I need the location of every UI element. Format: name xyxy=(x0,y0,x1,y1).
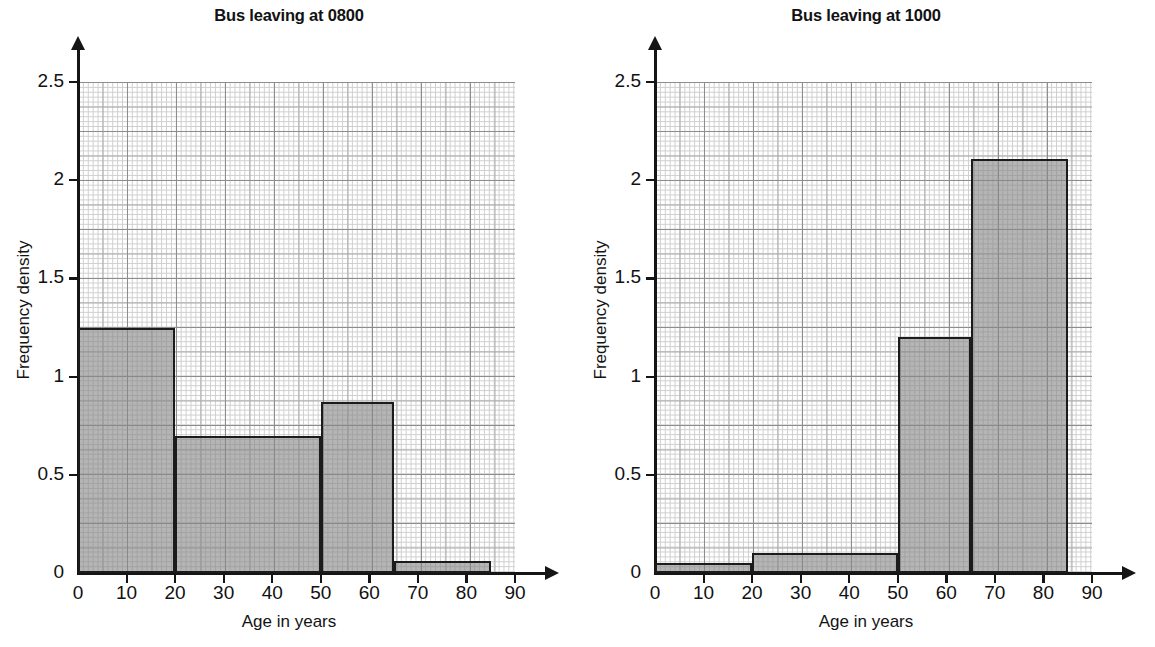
x-axis-arrow-icon xyxy=(545,566,559,580)
x-axis-tick-label: 20 xyxy=(727,582,777,604)
y-axis-tick-label-text: 0 xyxy=(630,561,641,583)
figure-root: Bus leaving at 080000.511.522.5010203040… xyxy=(0,0,1155,647)
histogram-bar xyxy=(655,563,752,573)
y-axis-tick xyxy=(69,474,78,476)
histogram-bar xyxy=(78,328,175,574)
y-axis-tick-label-text: 0.5 xyxy=(615,463,641,485)
plot-area xyxy=(78,82,515,573)
plot-area xyxy=(655,82,1092,573)
x-axis-tick-label: 80 xyxy=(1018,582,1068,604)
x-axis-tick-label: 0 xyxy=(53,582,103,604)
histogram-bar xyxy=(898,337,971,573)
x-axis-tick-label: 80 xyxy=(441,582,491,604)
chart-title: Bus leaving at 1000 xyxy=(577,6,1155,25)
chart-panel-1000: Bus leaving at 100000.511.522.5010203040… xyxy=(577,0,1155,647)
x-axis-tick-label: 90 xyxy=(490,582,540,604)
y-axis-tick xyxy=(69,277,78,279)
y-axis-tick-label-text: 2 xyxy=(53,168,64,190)
x-axis-tick-label: 30 xyxy=(199,582,249,604)
y-axis-tick-label-text: 2 xyxy=(630,168,641,190)
x-axis-tick-label: 60 xyxy=(344,582,394,604)
x-axis-tick-label: 50 xyxy=(873,582,923,604)
x-axis-tick-label: 90 xyxy=(1067,582,1117,604)
y-axis-tick-label-text: 1 xyxy=(630,365,641,387)
y-axis-tick xyxy=(646,376,655,378)
y-axis-tick xyxy=(69,376,78,378)
y-axis-tick-label-text: 1 xyxy=(53,365,64,387)
y-axis-tick-label-text: 0 xyxy=(53,561,64,583)
chart-title: Bus leaving at 0800 xyxy=(0,6,578,25)
x-axis-tick-label: 40 xyxy=(824,582,874,604)
y-axis-tick-label-text: 2.5 xyxy=(38,70,64,92)
y-axis-tick-label-text: 1.5 xyxy=(38,266,64,288)
histogram-bar xyxy=(394,561,491,573)
x-axis-tick-label: 10 xyxy=(679,582,729,604)
x-axis-arrow-icon xyxy=(1122,566,1136,580)
x-axis-tick-label: 0 xyxy=(630,582,680,604)
y-axis-arrow-icon xyxy=(648,36,662,50)
y-axis-title: Frequency density xyxy=(591,190,611,430)
x-axis-tick-label: 40 xyxy=(247,582,297,604)
histogram-bar xyxy=(971,159,1068,573)
x-axis-title: Age in years xyxy=(577,612,1155,632)
x-axis-tick-label: 70 xyxy=(393,582,443,604)
y-axis-arrow-icon xyxy=(71,36,85,50)
y-axis-title: Frequency density xyxy=(14,190,34,430)
chart-panel-0800: Bus leaving at 080000.511.522.5010203040… xyxy=(0,0,578,647)
y-axis-tick-label-text: 2.5 xyxy=(615,70,641,92)
x-axis-tick-label: 20 xyxy=(150,582,200,604)
x-axis-tick-label: 30 xyxy=(776,582,826,604)
y-axis-tick xyxy=(646,81,655,83)
x-axis-tick-label: 70 xyxy=(970,582,1020,604)
y-axis-tick xyxy=(646,179,655,181)
y-axis-tick xyxy=(69,179,78,181)
x-axis-tick-label: 50 xyxy=(296,582,346,604)
histogram-bar xyxy=(321,402,394,573)
bar-group xyxy=(78,82,515,573)
histogram-bar xyxy=(175,436,321,573)
y-axis-tick-label-text: 0.5 xyxy=(38,463,64,485)
y-axis-tick xyxy=(646,474,655,476)
y-axis-tick xyxy=(646,277,655,279)
bar-group xyxy=(655,82,1092,573)
histogram-bar xyxy=(752,553,898,573)
x-axis-tick-label: 10 xyxy=(102,582,152,604)
y-axis-tick xyxy=(69,81,78,83)
x-axis-title: Age in years xyxy=(0,612,578,632)
y-axis-tick-label-text: 1.5 xyxy=(615,266,641,288)
x-axis-tick-label: 60 xyxy=(921,582,971,604)
y-axis-line xyxy=(654,44,657,575)
